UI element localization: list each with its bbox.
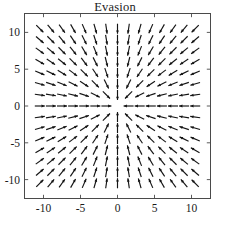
plot-frame — [24, 13, 211, 199]
quiver-arrow-head — [116, 112, 119, 115]
quiver-arrow-head — [168, 83, 172, 86]
quiver-arrow-head — [106, 74, 109, 78]
x-tick-label: -5 — [76, 201, 86, 215]
quiver-arrow-head — [116, 123, 119, 126]
quiver-arrow-head — [127, 74, 130, 78]
quiver-arrow-head — [146, 115, 150, 118]
quiver-arrow-head — [138, 157, 141, 161]
quiver-arrow-head — [95, 41, 98, 45]
quiver-arrow-head — [116, 86, 119, 89]
quiver-arrow-head — [95, 52, 98, 56]
x-tick-label: 0 — [115, 201, 121, 215]
quiver-arrow-head — [116, 64, 119, 67]
quiver-arrow-group — [35, 24, 200, 189]
quiver-arrow-head — [75, 105, 78, 108]
y-tick-label: 10 — [9, 26, 21, 39]
quiver-arrow-head — [138, 168, 141, 172]
quiver-arrow-head — [108, 105, 111, 108]
quiver-arrow-head — [63, 126, 67, 129]
quiver-arrow-head — [52, 126, 56, 129]
quiver-arrow-head — [116, 178, 119, 181]
quiver-arrow-head — [190, 83, 194, 86]
quiver-arrow-head — [94, 30, 97, 34]
quiver-arrow-head — [179, 105, 182, 108]
quiver-arrow-head — [146, 105, 149, 108]
quiver-arrow-head — [168, 126, 172, 129]
quiver-arrow-head — [146, 94, 150, 97]
y-axis-tick-labels: -10-50510 — [0, 13, 22, 199]
quiver-arrow-head — [138, 30, 141, 34]
chart-title: Evasion — [0, 0, 230, 14]
quiver-arrow-head — [116, 156, 119, 159]
quiver-arrow-head — [94, 178, 97, 182]
quiver-arrow-head — [97, 105, 100, 108]
quiver-arrow-head — [179, 126, 183, 129]
y-tick-label: -10 — [5, 173, 20, 186]
quiver-arrow-head — [116, 41, 119, 44]
quiver-arrow-head — [63, 83, 67, 86]
quiver-arrow-head — [41, 105, 44, 108]
quiver-arrow-head — [95, 157, 98, 161]
quiver-arrow-head — [95, 168, 98, 172]
quiver-arrow-head — [116, 30, 119, 33]
vector-field-plot — [25, 14, 210, 198]
y-tick-label: 0 — [14, 100, 20, 113]
quiver-arrow-head — [138, 178, 141, 182]
quiver-arrow-head — [168, 105, 171, 108]
x-axis-tick-labels: -10-50510 — [24, 201, 211, 217]
quiver-arrow-head — [116, 134, 119, 137]
quiver-arrow-head — [116, 52, 119, 55]
quiver-arrow-head — [41, 83, 45, 86]
quiver-arrow-head — [85, 115, 89, 118]
y-tick-label: -5 — [10, 136, 20, 149]
quiver-arrow-head — [116, 145, 119, 148]
quiver-arrow-head — [86, 105, 89, 108]
quiver-arrow-head — [85, 94, 89, 97]
x-tick-label: 5 — [152, 201, 158, 215]
quiver-arrow-head — [138, 41, 141, 45]
quiver-arrow-head — [116, 75, 119, 78]
quiver-arrow-head — [179, 83, 183, 86]
x-tick-label: -10 — [36, 201, 51, 215]
quiver-arrow-head — [106, 134, 109, 138]
quiver-arrow-head — [190, 105, 193, 108]
y-tick-label: 5 — [14, 63, 20, 76]
quiver-arrow-head — [116, 167, 119, 170]
quiver-arrow-head — [127, 134, 130, 138]
quiver-arrow-head — [190, 126, 194, 129]
quiver-arrow-head — [135, 105, 138, 108]
quiver-arrow-head — [64, 105, 67, 108]
quiver-arrow-head — [41, 126, 45, 129]
quiver-arrow-head — [138, 52, 141, 56]
quiver-arrow-head — [157, 105, 160, 108]
quiver-arrow-head — [53, 105, 56, 108]
quiver-arrow-head — [116, 97, 119, 100]
x-tick-label: 10 — [186, 201, 198, 215]
quiver-figure: Evasion -10-50510 -10-50510 — [0, 0, 230, 226]
quiver-arrow-head — [124, 105, 127, 108]
quiver-arrow-head — [52, 83, 56, 86]
